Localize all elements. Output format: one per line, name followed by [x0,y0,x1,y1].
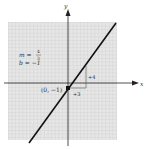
run-label: +3 [73,91,80,97]
graph: x y m = 4 3 b = −1 (0, −1) +4 +3 [0,0,145,149]
point-label: (0, −1) [41,86,62,93]
intercept-point [66,86,70,90]
x-arrow-icon [132,81,139,86]
slope-numerator: 4 [37,49,40,54]
y-axis-label: y [63,2,68,10]
y-arrow-icon [66,9,71,16]
b-label: b = −1 [19,59,41,66]
m-label: m = [19,51,32,58]
x-axis-label: x [140,80,144,87]
rise-label: +4 [88,74,95,80]
